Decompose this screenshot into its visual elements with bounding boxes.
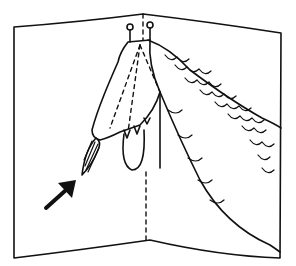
hatched-leaf [82, 138, 100, 175]
crocodile-head [92, 22, 160, 140]
card-outline [14, 14, 281, 258]
crocodile-scales [165, 55, 274, 203]
center-fold [143, 14, 146, 240]
crocodile-body [148, 40, 281, 252]
illustration-canvas [0, 0, 296, 266]
pointer-arrow [46, 180, 76, 208]
popup-card-illustration [0, 0, 296, 266]
